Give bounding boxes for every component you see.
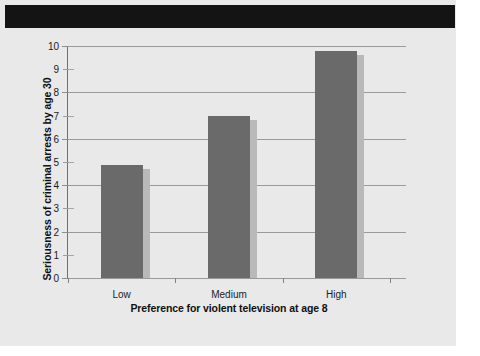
y-tick-label: 7 [53,110,59,121]
y-tick-stub [68,208,74,209]
gridline [68,46,406,47]
y-tick-label: 4 [53,180,59,191]
y-tick-mark [62,92,68,93]
header-black-band [5,5,455,28]
bar-high [315,51,357,278]
x-tick-mark [175,278,176,283]
bar-low [101,165,143,278]
x-tick-mark [68,278,69,283]
y-tick-stub [68,116,74,117]
x-axis-title: Preference for violent television at age… [68,302,390,314]
y-tick-label: 5 [53,157,59,168]
y-tick-label: 9 [53,64,59,75]
y-tick-mark [62,185,68,186]
bar-medium [208,116,250,278]
x-tick-label: Medium [211,289,247,300]
page-root: Seriousness of criminal arrests by age 3… [0,0,480,356]
y-axis-title: Seriousness of criminal arrests by age 3… [41,54,53,304]
y-tick-label: 10 [48,41,59,52]
y-tick-stub [68,162,74,163]
y-tick-mark [62,46,68,47]
x-tick-label: Low [112,289,130,300]
bar-chart: Seriousness of criminal arrests by age 3… [0,28,456,346]
gridline [68,278,406,279]
plot-area: 012345678910 LowMediumHigh [68,46,390,278]
y-tick-stub [68,255,74,256]
y-tick-label: 6 [53,133,59,144]
y-tick-label: 1 [53,249,59,260]
y-tick-label: 2 [53,226,59,237]
x-tick-label: High [326,289,347,300]
y-tick-label: 8 [53,87,59,98]
y-tick-mark [62,139,68,140]
x-tick-mark [283,278,284,283]
y-tick-stub [68,69,74,70]
y-tick-mark [62,232,68,233]
x-tick-mark [390,278,391,283]
y-tick-label: 3 [53,203,59,214]
y-tick-label: 0 [53,273,59,284]
